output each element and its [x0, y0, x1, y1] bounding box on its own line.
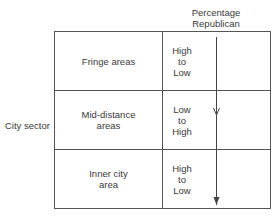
- downward-arrow-icon: [0, 0, 278, 218]
